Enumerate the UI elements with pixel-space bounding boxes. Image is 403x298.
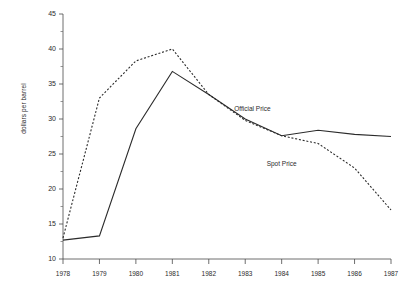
series-line-official-price: [63, 71, 391, 240]
x-tick-label: 1980: [129, 270, 144, 277]
x-tick-label: 1983: [238, 270, 253, 277]
y-tick-label: 15: [48, 220, 56, 227]
data-series-group: [63, 49, 391, 240]
series-annotations: Official PriceSpot Price: [234, 105, 297, 168]
y-tick-label: 40: [48, 45, 56, 52]
x-tick-label: 1987: [384, 270, 399, 277]
y-tick-label: 45: [48, 10, 56, 17]
y-tick-label: 35: [48, 80, 56, 87]
x-tick-label: 1985: [311, 270, 326, 277]
x-tick-label: 1986: [347, 270, 362, 277]
chart-plot-area: 1015202530354045 19781979198019811982198…: [0, 0, 403, 298]
y-tick-label: 10: [48, 255, 56, 262]
x-tick-label: 1979: [92, 270, 107, 277]
x-tick-label: 1982: [202, 270, 217, 277]
y-axis: 1015202530354045: [48, 10, 63, 262]
annotation-official-price: Official Price: [234, 105, 271, 112]
x-tick-label: 1978: [56, 270, 71, 277]
series-line-spot-price: [63, 49, 391, 238]
annotation-spot-price: Spot Price: [267, 160, 297, 168]
x-tick-label: 1984: [274, 270, 289, 277]
x-tick-label: 1981: [165, 270, 180, 277]
y-tick-label: 25: [48, 150, 56, 157]
oil-price-line-chart: dollars per barrel 1015202530354045 1978…: [0, 0, 403, 298]
y-tick-label: 30: [48, 115, 56, 122]
y-tick-label: 20: [48, 185, 56, 192]
x-axis: 1978197919801981198219831984198519861987: [56, 259, 399, 277]
